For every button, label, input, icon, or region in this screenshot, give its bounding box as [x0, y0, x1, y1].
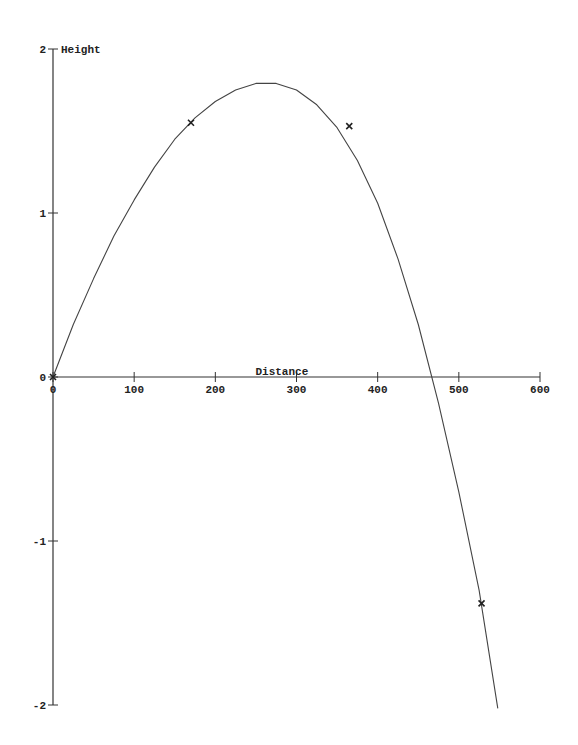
- x-tick-label: 100: [124, 384, 144, 396]
- y-axis-label: Height: [61, 44, 101, 56]
- x-tick-label: 500: [449, 384, 469, 396]
- x-tick-label: 0: [50, 384, 57, 396]
- x-tick-label: 300: [287, 384, 307, 396]
- y-tick-label: -2: [33, 700, 46, 712]
- chart: 0100200300400500600210-1-2HeightDistance: [0, 0, 578, 745]
- x-marker-icon: [188, 120, 194, 126]
- x-axis-label: Distance: [255, 366, 308, 378]
- y-tick-label: 2: [39, 44, 46, 56]
- x-marker-icon: [346, 123, 352, 129]
- x-tick-label: 200: [205, 384, 225, 396]
- x-tick-label: 600: [530, 384, 550, 396]
- trajectory-curve: [53, 83, 498, 708]
- x-tick-label: 400: [368, 384, 388, 396]
- y-tick-label: 1: [39, 208, 46, 220]
- y-tick-label: 0: [39, 372, 46, 384]
- y-tick-label: -1: [33, 536, 47, 548]
